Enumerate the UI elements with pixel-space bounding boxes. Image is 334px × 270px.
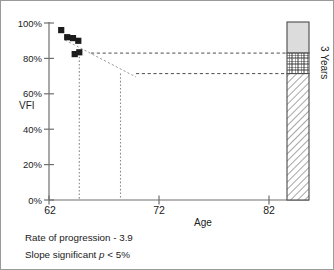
y-tick-label-20: 20% <box>23 159 43 170</box>
data-point <box>75 38 81 44</box>
data-point <box>76 49 82 55</box>
side-bar-label: 3 Years <box>319 46 330 79</box>
footnotes: Rate of progression - 3.9 Slope signific… <box>25 232 133 260</box>
vfi-progression-chart: 100% 80% 60% 40% 20% 0% VFI 62 72 82 Age <box>1 1 334 270</box>
data-points <box>58 27 82 57</box>
x-tick-label-82: 82 <box>263 204 275 216</box>
slope-significance-note: Slope significant p < 5% <box>25 249 130 260</box>
y-tick-label-100: 100% <box>18 18 43 29</box>
side-bar-chart: 3 Years <box>287 22 330 200</box>
data-point <box>70 35 76 41</box>
bar-segment-projected-loss <box>287 53 309 74</box>
chart-figure: 100% 80% 60% 40% 20% 0% VFI 62 72 82 Age <box>0 0 334 270</box>
y-tick-label-40: 40% <box>23 124 43 135</box>
y-tick-label-60: 60% <box>23 88 43 99</box>
y-tick-label-80: 80% <box>23 53 43 64</box>
y-tick-label-0: 0% <box>28 195 42 206</box>
data-point <box>64 34 70 40</box>
slope-suffix: < 5% <box>105 249 131 260</box>
reference-lines <box>79 53 287 199</box>
x-axis: 62 72 82 Age <box>44 196 309 229</box>
y-axis: 100% 80% 60% 40% 20% 0% VFI <box>18 18 54 206</box>
rate-of-progression-note: Rate of progression - 3.9 <box>25 232 133 243</box>
trend-line <box>65 40 136 77</box>
x-axis-title: Age <box>194 217 212 228</box>
bar-segment-retained-vision <box>287 74 309 200</box>
y-axis-title: VFI <box>19 100 35 111</box>
slope-prefix: Slope significant <box>25 249 99 260</box>
x-tick-label-62: 62 <box>44 204 56 216</box>
bar-segment-remaining-reserve <box>287 22 309 53</box>
x-tick-label-72: 72 <box>153 204 165 216</box>
data-point <box>58 27 64 33</box>
